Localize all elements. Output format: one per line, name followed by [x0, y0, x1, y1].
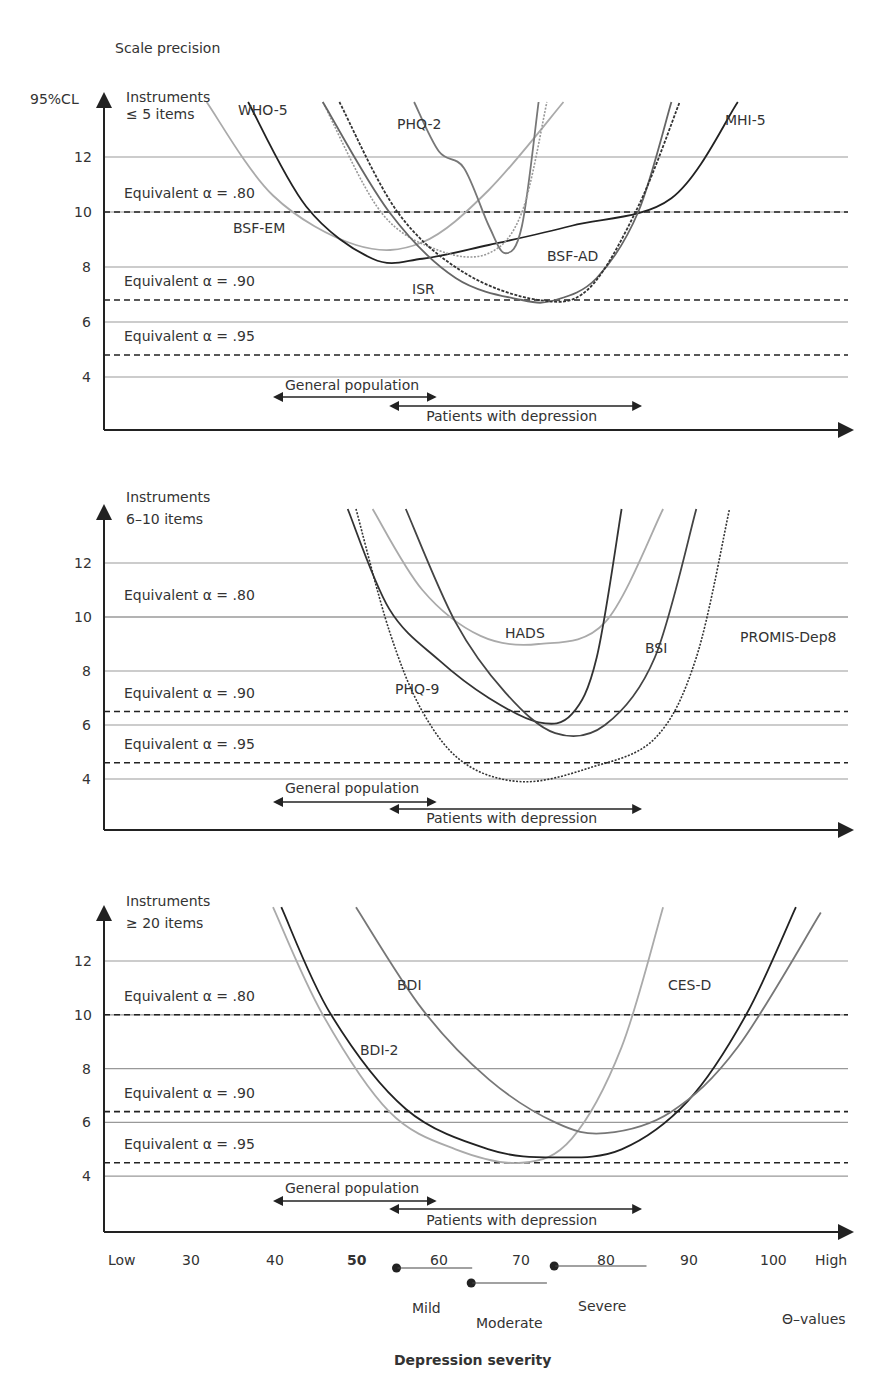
x-axis-arrow-icon [838, 1224, 854, 1240]
reference-line-label: Equivalent α = .95 [124, 328, 255, 344]
reference-line-label: Equivalent α = .95 [124, 736, 255, 752]
curve-bdi-2 [281, 907, 796, 1157]
panel-title-line1: Instruments [126, 89, 210, 105]
theta-values-label: Θ–values [782, 1311, 846, 1327]
x-tick-label: 100 [760, 1252, 787, 1268]
x-axis: Low30405060708090100High [108, 1252, 847, 1268]
severity-band-label: Moderate [476, 1315, 543, 1331]
y-tick-label: 10 [74, 204, 92, 220]
reference-line-label: Equivalent α = .90 [124, 685, 255, 701]
y-tick-label: 8 [82, 259, 91, 275]
general-population-label: General population [285, 1180, 419, 1196]
panel-2: 4681012Equivalent α = .80Equivalent α = … [74, 489, 854, 838]
x-axis-arrow-icon [838, 422, 854, 438]
panel-title-line2: 6–10 items [126, 511, 203, 527]
x-tick-label: 40 [266, 1252, 284, 1268]
x-tick-label: 90 [680, 1252, 698, 1268]
curve-label: MHI-5 [725, 112, 766, 128]
severity-band-label: Severe [578, 1298, 626, 1314]
y-axis-label: 95%CL [30, 91, 79, 107]
x-tick-label: Low [108, 1252, 136, 1268]
panel-1: 4681012Equivalent α = .80Equivalent α = … [74, 89, 854, 438]
y-tick-label: 6 [82, 717, 91, 733]
y-tick-label: 4 [82, 1168, 91, 1184]
figure-title: Scale precision [115, 40, 220, 56]
panel-3: 4681012Equivalent α = .80Equivalent α = … [74, 893, 854, 1240]
reference-line-label: Equivalent α = .80 [124, 587, 255, 603]
curve-label: BSF-EM [233, 220, 285, 236]
patients-label: Patients with depression [426, 810, 597, 826]
x-tick-label: 70 [512, 1252, 530, 1268]
reference-line-label: Equivalent α = .90 [124, 1085, 255, 1101]
x-tick-label: 50 [347, 1252, 367, 1268]
y-axis-arrow-icon [96, 905, 112, 921]
curve-label: ISR [412, 281, 435, 297]
curve-bsi [406, 509, 697, 736]
curve-label: PHQ-9 [395, 681, 439, 697]
panel-title-line2: ≥ 20 items [126, 915, 203, 931]
panel-title-line1: Instruments [126, 489, 210, 505]
y-tick-label: 10 [74, 1007, 92, 1023]
y-tick-label: 12 [74, 555, 92, 571]
y-tick-label: 12 [74, 953, 92, 969]
panel-title-line2: ≤ 5 items [126, 106, 194, 122]
x-axis-arrow-icon [838, 822, 854, 838]
curve-label: WHO-5 [238, 102, 288, 118]
y-tick-label: 12 [74, 149, 92, 165]
reference-line-label: Equivalent α = .80 [124, 988, 255, 1004]
reference-line-label: Equivalent α = .95 [124, 1136, 255, 1152]
curve-label: BDI-2 [360, 1042, 398, 1058]
severity-bands: MildModerateSevere [392, 1262, 647, 1332]
x-axis-title: Depression severity [394, 1352, 551, 1368]
y-tick-label: 6 [82, 314, 91, 330]
y-tick-label: 8 [82, 1061, 91, 1077]
y-tick-label: 4 [82, 369, 91, 385]
figure-canvas: Scale precision 95%CL 4681012Equivalent … [0, 0, 890, 1394]
patients-label: Patients with depression [426, 1212, 597, 1228]
y-tick-label: 4 [82, 771, 91, 787]
x-tick-label: 30 [182, 1252, 200, 1268]
curve-bdi [356, 907, 821, 1133]
y-tick-label: 6 [82, 1114, 91, 1130]
x-tick-label: 60 [430, 1252, 448, 1268]
curve-label: BSF-AD [547, 248, 598, 264]
severity-band-label: Mild [412, 1300, 441, 1316]
y-axis-arrow-icon [96, 504, 112, 520]
general-population-label: General population [285, 780, 419, 796]
curve-label: BDI [397, 977, 422, 993]
curve-label: PROMIS-Dep8 [740, 629, 837, 645]
curve-label: HADS [505, 625, 545, 641]
reference-line-label: Equivalent α = .90 [124, 273, 255, 289]
y-axis-arrow-icon [96, 92, 112, 108]
curve-label: CES-D [668, 977, 711, 993]
patients-label: Patients with depression [426, 408, 597, 424]
general-population-label: General population [285, 377, 419, 393]
curve-ces-d [273, 907, 663, 1163]
x-tick-label: High [815, 1252, 847, 1268]
y-tick-label: 8 [82, 663, 91, 679]
curve-mhi-5 [339, 102, 679, 302]
curve-label: PHQ-2 [397, 116, 441, 132]
y-tick-label: 10 [74, 609, 92, 625]
reference-line-label: Equivalent α = .80 [124, 185, 255, 201]
curve-promis-dep8 [356, 509, 730, 782]
panel-title-line1: Instruments [126, 893, 210, 909]
curve-label: BSI [645, 640, 667, 656]
